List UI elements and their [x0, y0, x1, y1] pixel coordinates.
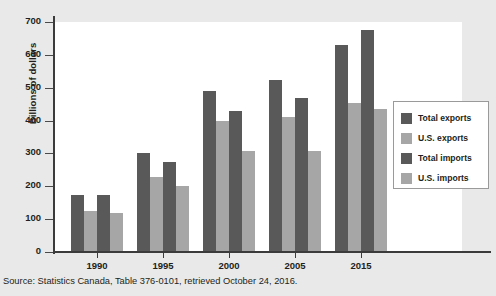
y-tick-line [45, 55, 53, 56]
bar-2005-total-exports [269, 80, 282, 253]
y-tick-label: 500 [11, 81, 41, 92]
bar-1990-u-s-imports [110, 213, 123, 252]
legend-swatch-icon [401, 173, 412, 184]
y-tick-line [45, 153, 53, 154]
legend-swatch-icon [401, 153, 412, 164]
x-tick-line [163, 252, 164, 258]
chart-root: Billions of dollars 01002003004005006007… [0, 0, 496, 296]
y-tick-line [45, 121, 53, 122]
bar-1990-u-s-exports [84, 211, 97, 252]
y-tick-label: 0 [11, 245, 41, 256]
bar-2015-total-imports [361, 30, 374, 252]
x-tick-label: 1990 [71, 260, 123, 271]
y-tick-label: 100 [11, 212, 41, 223]
y-tick-label: 700 [11, 15, 41, 26]
bar-2015-total-exports [335, 45, 348, 252]
x-tick-label: 2005 [269, 260, 321, 271]
source-caption: Source: Statistics Canada, Table 376-010… [3, 276, 297, 286]
bar-1995-u-s-imports [176, 186, 189, 252]
y-tick-label: 200 [11, 179, 41, 190]
legend-label: Total exports [418, 113, 471, 123]
legend-label: Total imports [418, 153, 472, 163]
legend-label: U.S. imports [418, 173, 469, 183]
bar-2000-total-imports [229, 111, 242, 252]
bar-2005-u-s-imports [308, 151, 321, 252]
y-tick-line [45, 219, 53, 220]
y-tick-label: 300 [11, 146, 41, 157]
legend-label: U.S. exports [418, 133, 468, 143]
bar-1995-total-exports [137, 153, 150, 252]
y-tick-line [45, 22, 53, 23]
x-tick-line [229, 252, 230, 258]
x-tick-line [361, 252, 362, 258]
bar-2015-u-s-exports [348, 103, 361, 253]
chart-legend: Total exportsU.S. exportsTotal importsU.… [393, 101, 489, 189]
bar-2000-u-s-imports [242, 151, 255, 252]
bar-2005-total-imports [295, 98, 308, 252]
x-axis-line [53, 251, 491, 253]
legend-rows: Total exportsU.S. exportsTotal importsU.… [401, 108, 488, 188]
bar-1995-u-s-exports [150, 177, 163, 252]
bar-1995-total-imports [163, 162, 176, 252]
x-tick-label: 2000 [203, 260, 255, 271]
legend-swatch-icon [401, 133, 412, 144]
legend-swatch-icon [401, 113, 412, 124]
legend-item-u-s-exports[interactable]: U.S. exports [401, 128, 488, 148]
bar-2015-u-s-imports [374, 109, 387, 252]
bar-1990-total-imports [97, 195, 110, 253]
y-tick-line [45, 88, 53, 89]
y-tick-line [45, 186, 53, 187]
y-tick-label: 600 [11, 48, 41, 59]
legend-item-total-exports[interactable]: Total exports [401, 108, 488, 128]
bar-2000-u-s-exports [216, 121, 229, 252]
bar-1990-total-exports [71, 195, 84, 253]
legend-item-u-s-imports[interactable]: U.S. imports [401, 168, 488, 188]
bar-2000-total-exports [203, 91, 216, 252]
x-tick-line [97, 252, 98, 258]
x-tick-line [295, 252, 296, 258]
x-tick-label: 1995 [137, 260, 189, 271]
y-tick-line [45, 252, 53, 253]
legend-item-total-imports[interactable]: Total imports [401, 148, 488, 168]
bar-2005-u-s-exports [282, 117, 295, 252]
y-axis-line [53, 16, 55, 254]
y-tick-label: 400 [11, 114, 41, 125]
x-tick-label: 2015 [335, 260, 387, 271]
